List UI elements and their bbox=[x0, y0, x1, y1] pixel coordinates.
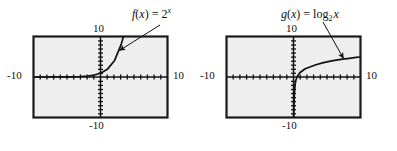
axis-label-top: 10 bbox=[286, 23, 297, 34]
axis-label-left: -10 bbox=[7, 70, 22, 81]
equals-sign: = bbox=[152, 7, 159, 21]
exponent-value: x bbox=[167, 6, 171, 15]
figure-two-graphs: f(x) = 2x 10 -10 -10 10 bbox=[0, 0, 397, 151]
equation-label-exponential: f(x) = 2x bbox=[132, 8, 171, 21]
axis-label-bottom: -10 bbox=[89, 120, 104, 131]
axis-label-bottom: -10 bbox=[282, 120, 297, 131]
equals-sign: = bbox=[303, 7, 310, 21]
log-argument: x bbox=[333, 7, 338, 21]
axis-label-top: 10 bbox=[93, 23, 104, 34]
log-base: 2 bbox=[328, 14, 332, 23]
axis-label-left: -10 bbox=[200, 70, 215, 81]
equation-label-logarithmic: g(x) = log2 x bbox=[281, 8, 339, 21]
graph-panel-exponential: f(x) = 2x 10 -10 -10 10 bbox=[0, 0, 198, 151]
graph-panel-logarithmic: g(x) = log2 x 10 -10 -10 10 bbox=[199, 0, 397, 151]
log-word: log bbox=[313, 7, 328, 21]
axis-label-right: 10 bbox=[366, 70, 377, 81]
axis-label-right: 10 bbox=[173, 70, 184, 81]
